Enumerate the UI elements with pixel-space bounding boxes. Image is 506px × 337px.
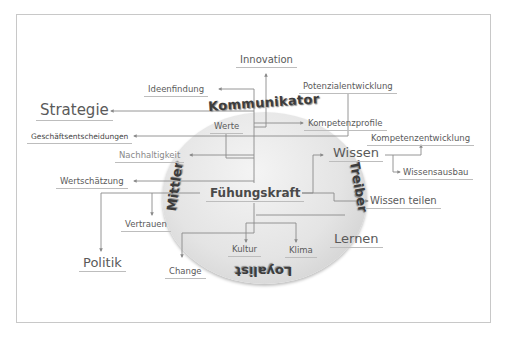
- label-geschaeftsentscheidungen: Geschäftsentscheidungen: [31, 133, 128, 141]
- label-nachhaltigkeit: Nachhaltigkeit: [119, 151, 180, 160]
- label-lernen: Lernen: [334, 232, 379, 245]
- label-wissensausbau: Wissensausbau: [403, 168, 469, 177]
- label-wissen-teilen: Wissen teilen: [370, 196, 437, 206]
- label-kompetenzprofile: Kompetenzprofile: [308, 119, 383, 128]
- label-ideenfindung: Ideenfindung: [148, 85, 204, 94]
- label-wertschaetzung: Wertschätzung: [60, 177, 124, 186]
- label-kultur: Kultur: [232, 245, 257, 254]
- label-vertrauen: Vertrauen: [125, 220, 167, 229]
- label-politik: Politik: [83, 256, 122, 269]
- label-change: Change: [169, 267, 202, 276]
- role-loyalist: Loyalist: [235, 265, 292, 278]
- label-strategie: Strategie: [40, 103, 109, 118]
- label-werte: Werte: [214, 122, 239, 131]
- label-klima: Klima: [289, 246, 313, 255]
- label-potenzialentwicklung: Potenzialentwicklung: [303, 82, 393, 91]
- center-label-fuehrungskraft: Fühungskraft: [210, 187, 300, 199]
- label-wissen: Wissen: [333, 146, 379, 159]
- label-kompetenzentwicklung: Kompetenzentwicklung: [371, 134, 470, 143]
- label-innovation: Innovation: [240, 55, 293, 65]
